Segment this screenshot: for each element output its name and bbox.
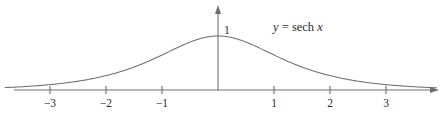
y-axis bbox=[215, 5, 221, 90]
sech-curve bbox=[5, 36, 436, 88]
x-tick-label-3: 3 bbox=[377, 98, 395, 110]
x-tick-label-neg3: −3 bbox=[40, 98, 60, 110]
x-axis bbox=[14, 87, 439, 93]
x-tick-label-neg2: −2 bbox=[96, 98, 116, 110]
x-tick-label-neg1: −1 bbox=[152, 98, 172, 110]
equation-function-name: sech bbox=[292, 20, 314, 34]
equation-argument: x bbox=[317, 20, 323, 34]
equation-equals-sign: = bbox=[282, 20, 289, 34]
x-tick-label-2: 2 bbox=[321, 98, 339, 110]
figure-sech-plot: 1 −3 −2 −1 1 2 3 y = sech x bbox=[0, 0, 446, 125]
equation-annotation: y = sech x bbox=[273, 21, 323, 34]
y-axis-value-label-1: 1 bbox=[224, 25, 230, 37]
x-tick-label-1: 1 bbox=[265, 98, 283, 110]
y-axis-arrowhead-icon bbox=[215, 5, 221, 14]
